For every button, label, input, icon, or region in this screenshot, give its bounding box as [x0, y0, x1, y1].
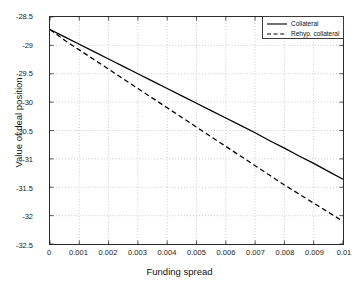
legend-item-rehyp-collateral: Rehyp. collateral — [266, 29, 340, 38]
legend-label: Rehyp. collateral — [291, 30, 339, 38]
data-series-layer — [50, 17, 343, 244]
legend-label: Collateral — [291, 20, 318, 28]
x-axis-title: Funding spread — [0, 266, 359, 277]
series-line — [50, 29, 343, 221]
chart-figure: -28.5-29-29.5-30-30.5-31-31.5-32-32.5 00… — [0, 0, 359, 288]
plot-area — [49, 16, 344, 245]
x-tick-label: 0 — [47, 248, 51, 257]
x-tick-label: 0.004 — [158, 248, 177, 257]
legend-line-solid-icon — [266, 20, 288, 28]
x-tick-label: 0.008 — [276, 248, 295, 257]
chart-legend: Collateral Rehyp. collateral — [262, 16, 344, 39]
x-tick-label: 0.002 — [99, 248, 118, 257]
x-tick-label: 0.006 — [217, 248, 236, 257]
x-tick-label: 0.001 — [69, 248, 88, 257]
legend-line-dashed-icon — [266, 30, 288, 38]
x-tick-label: 0.007 — [246, 248, 265, 257]
x-tick-label: 0.003 — [128, 248, 147, 257]
x-tick-label: 0.005 — [187, 248, 206, 257]
legend-item-collateral: Collateral — [266, 19, 340, 28]
y-axis-title: Value of deal position — [13, 43, 24, 203]
series-line — [50, 29, 343, 179]
x-tick-label: 0.01 — [337, 248, 352, 257]
x-tick-label: 0.009 — [305, 248, 324, 257]
